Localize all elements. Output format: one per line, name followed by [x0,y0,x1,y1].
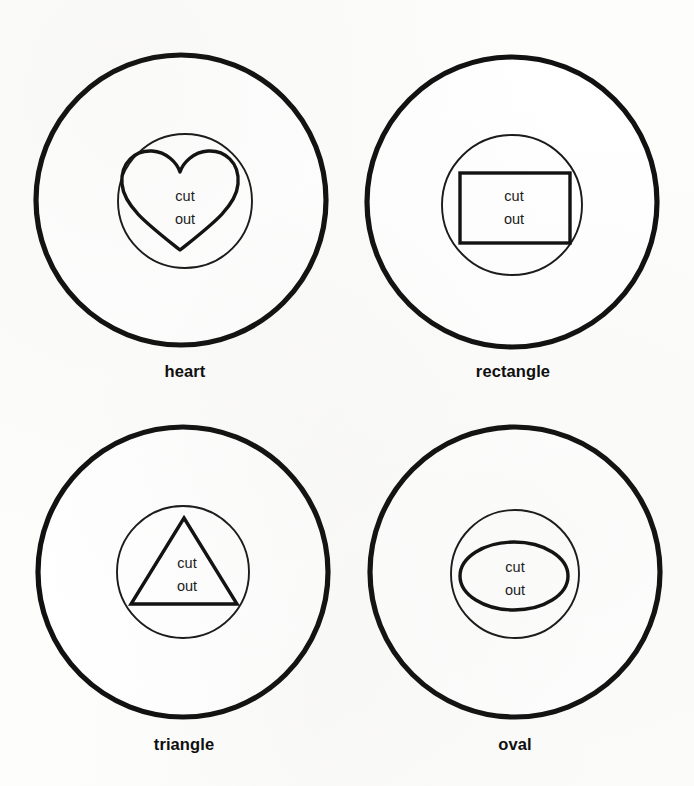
panel-rectangle: cut out rectangle [367,57,657,380]
cut-label-triangle-line2: out [177,578,197,594]
shape-name-rectangle: rectangle [476,362,550,380]
shape-name-oval: oval [498,735,531,753]
cut-label-oval-line1: cut [505,559,524,575]
panel-triangle: cut out triangle [38,427,328,753]
worksheet-page: cut out heart cut out rectangle cut out … [0,0,694,786]
cut-label-triangle-line1: cut [177,555,196,571]
cut-label-oval-line2: out [505,582,525,598]
cut-label-rectangle-line2: out [504,211,524,227]
panel-heart: cut out heart [36,55,326,380]
cut-label-heart-line2: out [175,211,195,227]
cut-label-heart-line1: cut [175,188,194,204]
shape-name-heart: heart [165,362,206,380]
shape-name-triangle: triangle [154,735,214,753]
cut-label-rectangle-line1: cut [504,188,523,204]
outer-circle-triangle [38,427,328,717]
shape-templates-figure: cut out heart cut out rectangle cut out … [0,0,694,786]
panel-oval: cut out oval [370,427,660,753]
